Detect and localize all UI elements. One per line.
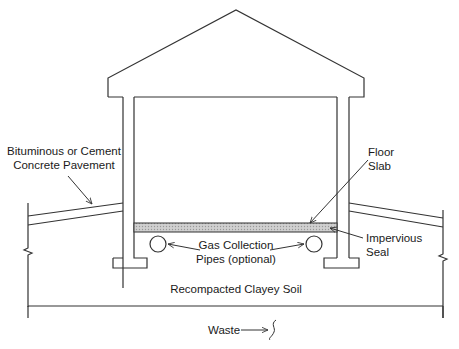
gas-pipe-left xyxy=(150,236,166,252)
floor-slab xyxy=(134,223,337,232)
impervious-seal-label: Impervious Seal xyxy=(366,231,422,259)
floor-slab-label: Floor Slab xyxy=(368,145,394,173)
floor-slab-label-line1: Floor xyxy=(368,145,394,159)
pavement-label-line1: Bituminous or Cement xyxy=(4,144,124,158)
floor-slab-leader xyxy=(310,160,368,223)
pavement-label: Bituminous or Cement Concrete Pavement xyxy=(4,144,124,172)
pavement-label-line2: Concrete Pavement xyxy=(4,158,124,172)
roof-outline xyxy=(108,10,364,97)
gas-pipes-label-line1: Gas Collection xyxy=(176,238,296,252)
gas-pipe-right xyxy=(306,236,322,252)
right-footing xyxy=(324,232,359,268)
left-break-line xyxy=(24,203,32,307)
impervious-seal-label-line2: Seal xyxy=(366,245,422,259)
right-wall xyxy=(337,97,349,258)
seal-leader xyxy=(330,228,363,238)
diagram-drawing xyxy=(0,0,459,349)
waste-squiggle xyxy=(269,320,276,340)
waste-label: Waste xyxy=(208,323,240,337)
left-wall xyxy=(123,97,134,288)
landfill-building-cross-section: Bituminous or Cement Concrete Pavement F… xyxy=(0,0,459,349)
impervious-seal-label-line1: Impervious xyxy=(366,231,422,245)
gas-pipes-label: Gas Collection Pipes (optional) xyxy=(176,238,296,266)
left-pavement xyxy=(28,203,123,225)
left-footing xyxy=(113,267,123,288)
soil-waste-boundary xyxy=(28,306,443,318)
floor-slab-label-line2: Slab xyxy=(368,159,394,173)
pavement-leader xyxy=(68,176,92,204)
right-pavement xyxy=(349,203,443,227)
soil-label: Recompacted Clayey Soil xyxy=(136,282,336,296)
gas-pipes-label-line2: Pipes (optional) xyxy=(176,252,296,266)
